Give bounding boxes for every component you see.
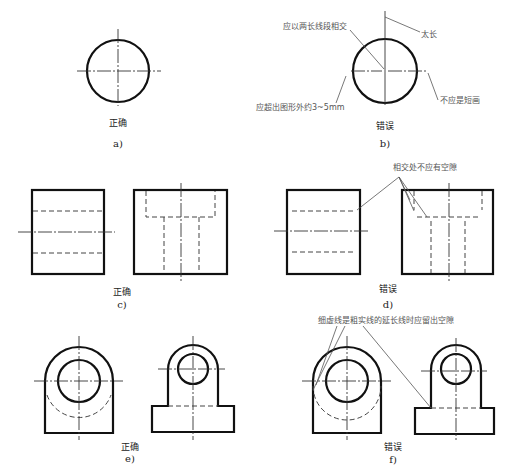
verdict-label: 错误 [379,283,397,294]
leader-4 [399,177,427,217]
panel-d: 相交处不应有空隙 错误 d) [274,162,493,310]
verdict-label: 错误 [384,441,402,452]
leader-extend [336,76,346,103]
leader-too-long [385,17,420,32]
right-view-outline [134,190,227,274]
right-view-outline [415,345,494,434]
panel-c: 正确 c) [18,183,227,310]
note-leave-gap: 细虚线是粗实线的延长线时应留出空隙 [318,315,454,325]
caption: f) [389,454,397,465]
left-view-outline [287,190,360,274]
verdict-label: 正确 [121,441,139,452]
note-no-gap: 相交处不应有空隙 [393,162,457,172]
leader-2 [313,326,345,390]
note-intersect: 应以两长线段相交 [283,21,347,31]
verdict-label: 错误 [376,120,394,131]
hidden-counterbore [146,191,215,217]
caption: b) [380,138,390,149]
verdict-label: 正确 [109,117,127,128]
note-short-dash: 不应是短画 [440,95,480,105]
leader-1 [357,177,399,210]
leader-3 [363,326,431,408]
panel-f: 细虚线是粗实线的延长线时应留出空隙 错误 f) [302,315,494,465]
caption: e) [125,453,135,464]
verdict-label: 正确 [113,286,131,297]
panel-b: 应以两长线段相交 太长 应超出图形外约3~5mm 不应是短画 错误 b) [256,11,480,149]
caption: d) [383,299,393,310]
caption: a) [113,138,123,149]
caption: c) [117,299,127,310]
panel-a: 正确 a) [77,29,161,149]
drawing-canvas: 正确 a) 应以两长线段相交 太长 应超出图形外约3~5mm 不应是短画 错误 … [0,0,511,476]
panel-e: 正确 e) [34,336,234,464]
right-view-outline [402,190,493,274]
note-too-long: 太长 [421,29,437,39]
note-extend: 应超出图形外约3~5mm [256,102,345,112]
leader-short-dash [428,73,438,100]
